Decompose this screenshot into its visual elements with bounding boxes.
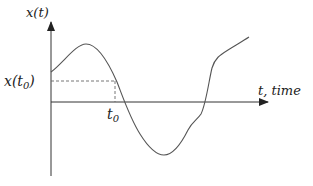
marked-time-label: t0 <box>107 106 120 124</box>
signal-diagram: x(t) t, time x(t0) t0 <box>0 0 313 186</box>
x-axis-label: t, time <box>258 83 301 98</box>
signal-curve <box>51 37 249 155</box>
marked-value-label: x(t0) <box>4 73 35 91</box>
y-axis-label: x(t) <box>26 5 49 20</box>
